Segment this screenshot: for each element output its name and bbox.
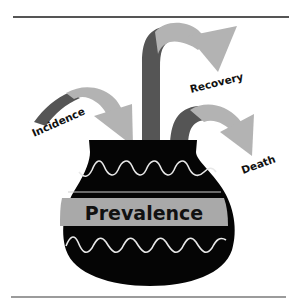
death-label: Death [240,152,277,175]
incidence-arrow-head [94,104,133,146]
prevalence-pot-diagram: Prevalence Incidence Recovery Death [0,0,299,308]
prevalence-label: Prevalence [85,202,203,224]
pot: Prevalence [60,140,235,286]
recovery-label: Recovery [189,70,245,95]
